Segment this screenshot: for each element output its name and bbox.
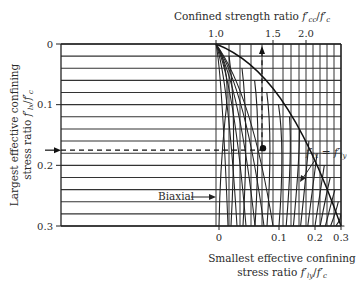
- bottom-axis-title-line1: Smallest effective confining: [208, 252, 356, 264]
- top-tick-label: 2.0: [298, 28, 314, 39]
- strength-curves: [216, 44, 344, 226]
- confinement-chart: 00.10.20.31.01.52.000.10.20.3 Confined s…: [0, 0, 358, 290]
- biaxial-arrow-head: [209, 194, 216, 200]
- subscript: cc: [309, 16, 317, 24]
- left-axis-title-line2: stress ratio f′lx/f′c: [21, 90, 35, 180]
- chart-svg: 00.10.20.31.01.52.000.10.20.3 Confined s…: [0, 0, 358, 290]
- left-tick-label: 0.3: [37, 221, 53, 232]
- top-axis-title-text: Confined strength ratio: [174, 10, 302, 22]
- equals: =: [318, 146, 333, 158]
- bottom-tick-label: 0: [216, 232, 222, 243]
- top-axis-title: Confined strength ratio f′cc/f′c: [174, 10, 330, 24]
- left-axis-title-line1: Largest effective confining: [8, 63, 20, 206]
- left-tick-label: 0.1: [37, 99, 53, 110]
- text: stress ratio: [237, 266, 300, 278]
- strength-curve: [286, 117, 290, 226]
- subscript: c: [326, 16, 330, 24]
- bottom-tick-label: 0.1: [271, 232, 287, 243]
- biaxial-label: Biaxial: [158, 190, 195, 202]
- top-tick-label: 1.5: [265, 28, 281, 39]
- top-tick-label: 1.0: [208, 28, 224, 39]
- subscript: c: [27, 90, 35, 94]
- left-tick-label: 0: [47, 39, 53, 50]
- subscript: ly: [340, 152, 347, 160]
- bottom-tick-label: 0.3: [333, 232, 349, 243]
- bottom-tick-label: 0.2: [307, 232, 323, 243]
- text: stress ratio: [21, 116, 33, 179]
- example-point: [260, 145, 266, 151]
- left-axis-title: Largest effective confining stress ratio…: [8, 63, 35, 206]
- input-arrow-head: [54, 147, 61, 153]
- output-arrow-head: [259, 46, 265, 54]
- bottom-axis-title-line2: stress ratio f′ly/f′c: [237, 266, 327, 280]
- subscript: c: [323, 272, 327, 280]
- left-tick-label: 0.2: [37, 160, 53, 171]
